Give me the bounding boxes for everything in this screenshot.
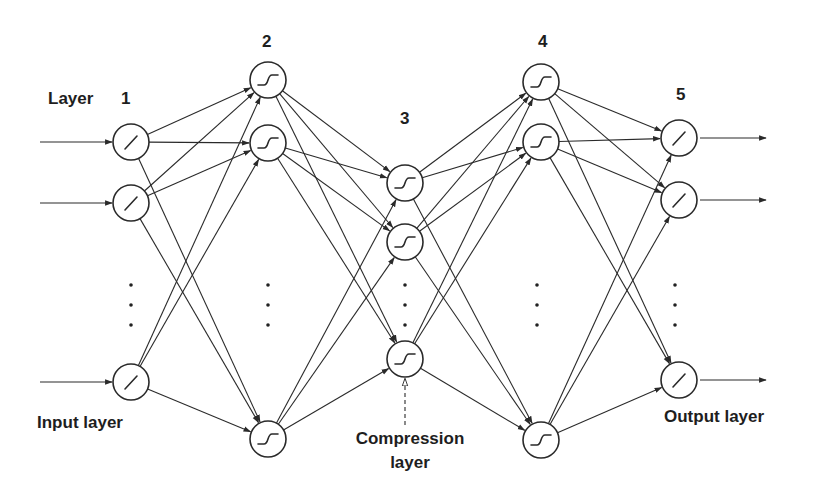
layer-number-4: 4 xyxy=(538,32,548,51)
connection-l3n3-l4n1 xyxy=(413,99,533,343)
ellipsis-dot xyxy=(673,323,677,327)
input-layer-label: Input layer xyxy=(37,413,123,432)
ellipsis-dot xyxy=(266,323,270,327)
ellipsis-dot xyxy=(673,283,677,287)
ellipsis-dot xyxy=(403,303,407,307)
connection-l3n1-l4n3 xyxy=(413,199,532,423)
ellipsis-dot xyxy=(129,283,133,287)
neuron-l5-n2 xyxy=(661,182,697,218)
ellipsis-layer-4 xyxy=(535,283,539,327)
neuron-l4-n2 xyxy=(523,124,559,160)
connection-l3n1-l4n1 xyxy=(420,93,526,172)
neuron-l3-n3 xyxy=(387,341,423,377)
neuron-l4-n3 xyxy=(523,422,559,458)
neuron-l1-n1 xyxy=(113,124,149,160)
layer-number-2: 2 xyxy=(262,32,271,51)
neuron-l2-n2 xyxy=(250,125,286,161)
connection-l1n1-l2n3 xyxy=(139,158,261,421)
ellipsis-dot xyxy=(403,283,407,287)
ellipsis-layer-5 xyxy=(673,283,677,327)
ellipsis-dot xyxy=(266,283,270,287)
connection-l2n2-l3n1 xyxy=(285,148,387,178)
connection-l1n3-l2n2 xyxy=(140,160,259,367)
layer-number-5: 5 xyxy=(676,85,685,104)
ellipsis-layer-1 xyxy=(129,283,133,327)
neuron-l5-n3 xyxy=(661,362,697,398)
connection-l2n3-l3n3 xyxy=(284,369,389,430)
connection-l1n3-l2n1 xyxy=(138,97,260,365)
neuron-l2-n1 xyxy=(250,62,286,98)
ellipsis-dot xyxy=(266,303,270,307)
neuron-l3-n1 xyxy=(387,165,423,201)
neural-network-diagram: Layer 1 2 3 4 5 Input layer Output layer… xyxy=(0,0,819,493)
ellipsis-dot xyxy=(129,303,133,307)
connection-l2n3-l3n1 xyxy=(277,200,397,423)
connection-l2n2-l3n3 xyxy=(278,158,395,343)
connection-l1n3-l2n3 xyxy=(148,389,251,432)
ellipsis-dot xyxy=(403,323,407,327)
connection-l2n1-l3n1 xyxy=(282,91,389,172)
connection-l1n2-l2n2 xyxy=(148,151,251,196)
connection-l3n3-l4n2 xyxy=(415,158,531,344)
connection-l1n2-l2n3 xyxy=(140,219,259,423)
ellipsis-dot xyxy=(673,303,677,307)
connection-l4n3-l5n3 xyxy=(558,388,662,433)
ellipsis-dot xyxy=(535,303,539,307)
ellipses xyxy=(129,283,677,327)
layer-number-3: 3 xyxy=(400,109,409,128)
ellipsis-layer-2 xyxy=(266,283,270,327)
neuron-l3-n2 xyxy=(387,224,423,260)
ellipsis-layer-3 xyxy=(403,283,407,327)
connection-l4n2-l5n2 xyxy=(558,149,662,193)
ellipsis-dot xyxy=(129,323,133,327)
neuron-l1-n2 xyxy=(113,185,149,221)
compression-label-line2: layer xyxy=(390,453,430,472)
layer-label: Layer xyxy=(48,89,94,108)
connection-l4n1-l5n3 xyxy=(549,98,671,363)
connection-l2n1-l3n3 xyxy=(276,96,397,342)
neuron-l4-n1 xyxy=(523,64,559,100)
layer-number-1: 1 xyxy=(121,89,130,108)
connection-l1n1-l2n1 xyxy=(147,88,250,135)
output-layer-label: Output layer xyxy=(664,407,765,426)
neuron-l1-n3 xyxy=(113,364,149,400)
connection-l4n3-l5n1 xyxy=(549,155,672,423)
neuron-l5-n1 xyxy=(661,120,697,156)
connection-l3n3-l4n3 xyxy=(421,368,525,430)
ellipsis-dot xyxy=(535,283,539,287)
ellipsis-dot xyxy=(535,323,539,327)
compression-label-line1: Compression xyxy=(356,429,465,448)
neuron-l2-n3 xyxy=(250,421,286,457)
